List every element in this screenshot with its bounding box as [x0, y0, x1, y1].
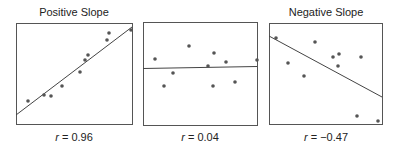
data-point	[359, 55, 363, 59]
data-point	[153, 57, 157, 61]
r-value-label: r = −0.47	[304, 131, 348, 143]
panel-title: Positive Slope	[39, 6, 109, 18]
data-point	[337, 52, 341, 56]
data-point	[212, 51, 216, 55]
data-point	[286, 61, 290, 65]
data-point	[83, 58, 87, 62]
panel-positive-slope: Positive Slope r = 0.96	[16, 6, 133, 143]
data-point	[211, 84, 215, 88]
data-point	[336, 64, 340, 68]
data-point	[274, 36, 278, 40]
panel-title: Negative Slope	[289, 6, 364, 18]
regression-line	[269, 36, 382, 97]
r-value-label: r = 0.96	[55, 131, 93, 143]
data-point	[162, 84, 166, 88]
data-point	[129, 28, 133, 32]
data-point	[224, 60, 228, 64]
plot-frame	[144, 23, 258, 126]
data-point	[42, 93, 46, 97]
regression-line	[16, 27, 132, 115]
data-point	[376, 119, 380, 123]
data-point	[331, 55, 335, 59]
data-point	[255, 58, 259, 62]
panel-no-correlation: r = 0.04	[143, 23, 259, 144]
data-point	[26, 99, 30, 103]
regression-line	[143, 67, 257, 69]
panel-negative-slope: Negative Slope r = −0.47	[269, 6, 383, 143]
data-point	[78, 70, 82, 74]
data-point	[313, 40, 317, 44]
data-point	[355, 114, 359, 118]
data-point	[302, 74, 306, 78]
data-point	[105, 38, 109, 42]
data-point	[107, 31, 111, 35]
scatter-panels: Positive Slope r = 0.96 r = 0.04 Negativ…	[0, 0, 398, 147]
data-point	[187, 44, 191, 48]
data-point	[171, 71, 175, 75]
data-point	[60, 84, 64, 88]
data-point	[233, 80, 237, 84]
plot-frame	[270, 24, 383, 125]
data-point	[49, 94, 53, 98]
data-point	[86, 53, 90, 57]
plot-frame	[17, 24, 133, 125]
data-point	[206, 64, 210, 68]
r-value-label: r = 0.04	[181, 131, 219, 143]
